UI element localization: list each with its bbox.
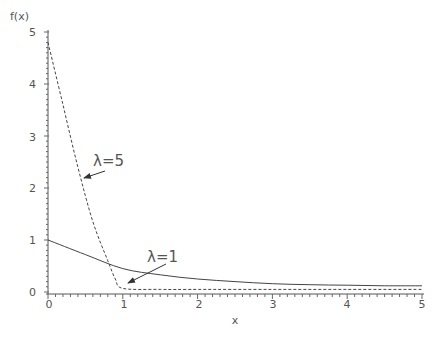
- x-tick-label: 3: [270, 298, 277, 311]
- y-axis: [44, 30, 49, 294]
- y-tick-label: 1: [29, 234, 36, 247]
- curve-lambda-1: [48, 240, 422, 286]
- x-tick-label: 4: [344, 298, 351, 311]
- x-tick-label: 5: [419, 298, 426, 311]
- x-tick-label: 0: [46, 298, 53, 311]
- annotation-lambda-5: λ=5: [93, 152, 124, 170]
- arrow-lambda-5: [84, 171, 105, 178]
- y-tick-label: 3: [29, 131, 36, 144]
- y-tick-label: 4: [29, 78, 36, 91]
- chart-canvas: 0 1 2 3 4 5 0 1 2 3 4 5 f(x) x λ=5 λ=1: [0, 0, 438, 337]
- arrow-lambda-1: [128, 264, 166, 283]
- y-tick-label: 2: [29, 182, 36, 195]
- y-axis-label: f(x): [10, 10, 29, 23]
- annotation-lambda-1: λ=1: [147, 248, 178, 266]
- y-tick-label: 0: [29, 286, 36, 299]
- y-tick-label: 5: [29, 26, 36, 39]
- x-tick-label: 2: [196, 298, 203, 311]
- x-axis-label: x: [232, 314, 239, 327]
- x-axis: [46, 294, 424, 299]
- x-tick-label: 1: [121, 298, 128, 311]
